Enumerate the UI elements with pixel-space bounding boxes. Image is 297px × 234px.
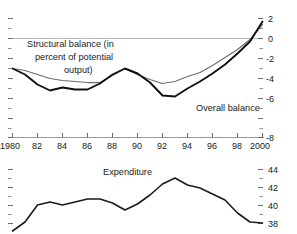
y-tick-38: 38	[268, 219, 278, 229]
y-tick-0: 0	[268, 34, 273, 44]
x-tick-2000: 2000	[250, 141, 270, 151]
y-tick-minus2: -2	[266, 54, 274, 64]
x-tick-84: 84	[57, 141, 67, 151]
y-tick-2: 2	[268, 14, 273, 24]
x-tick-94: 94	[182, 141, 192, 151]
structural-balance-label-line2: percent of potential	[35, 52, 113, 62]
y-tick-40: 40	[268, 201, 278, 211]
y-tick-42: 42	[268, 183, 278, 193]
structural-balance-label-line1: Structural balance (in	[27, 39, 114, 49]
annotation-structural-balance: Structural balance (in percent of potent…	[27, 39, 114, 75]
x-tick-98: 98	[232, 141, 242, 151]
y-tick-44: 44	[268, 165, 278, 175]
y-axis-labels-top: 2 0 -2 -4 -6 -8	[266, 14, 274, 143]
x-axis-labels: 1980 82 84 86 88 90 92 94 96 98 2000	[0, 141, 270, 151]
x-tick-90: 90	[132, 141, 142, 151]
y-axis-labels-bottom: 44 42 40 38	[268, 165, 278, 229]
left-axis-ticks	[8, 19, 13, 138]
x-tick-92: 92	[157, 141, 167, 151]
expenditure-label: Expenditure	[103, 167, 152, 177]
chart-panel-expenditure: Expenditure 44 42 40 38	[0, 152, 297, 234]
chart-panel-balances: Structural balance (in percent of potent…	[0, 0, 297, 152]
figure-root: Structural balance (in percent of potent…	[0, 0, 297, 234]
right-axis-ticks	[258, 19, 263, 138]
expenditure-svg: Expenditure 44 42 40 38	[0, 152, 297, 234]
structural-balance-label-line3: output)	[64, 65, 93, 75]
y-tick-minus6: -6	[266, 94, 274, 104]
x-tick-88: 88	[107, 141, 117, 151]
y-tick-minus4: -4	[266, 74, 274, 84]
x-tick-96: 96	[207, 141, 217, 151]
x-tick-1980: 1980	[0, 141, 20, 151]
x-tick-82: 82	[32, 141, 42, 151]
balances-svg: Structural balance (in percent of potent…	[0, 0, 297, 152]
x-tick-86: 86	[82, 141, 92, 151]
right-axis-ticks-bottom	[258, 170, 263, 224]
left-axis-ticks-bottom	[8, 170, 13, 224]
overall-balance-label: Overall balance	[196, 103, 260, 113]
series-line-expenditure	[13, 178, 263, 231]
